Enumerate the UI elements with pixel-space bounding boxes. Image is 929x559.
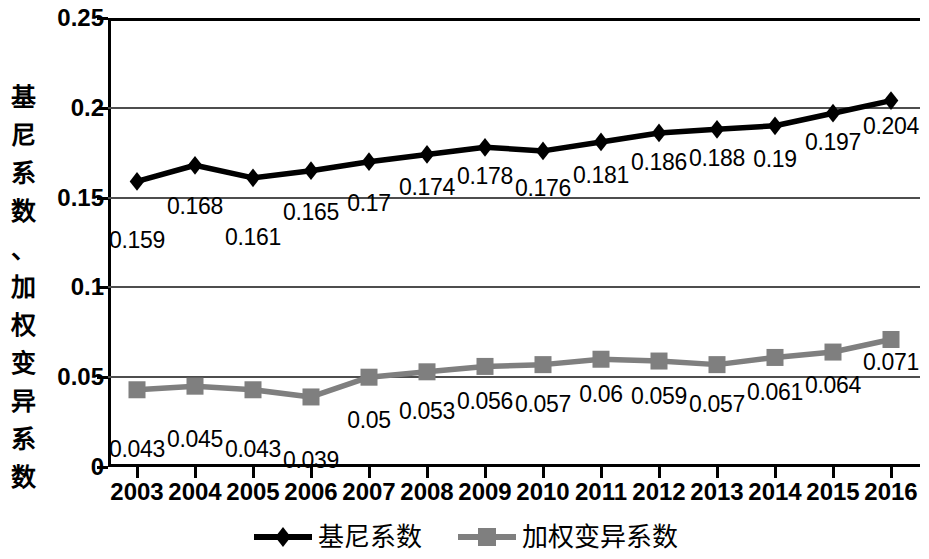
x-tickmark: [136, 467, 139, 478]
data-point-label: 0.178: [457, 163, 513, 190]
data-point-label: 0.061: [747, 379, 803, 406]
x-axis-tick-label: 2016: [864, 478, 917, 506]
data-point-marker: [420, 145, 435, 164]
x-axis-tick-label: 2004: [168, 478, 221, 506]
data-point-label: 0.204: [863, 113, 919, 140]
x-tickmark: [716, 467, 719, 478]
data-point-label: 0.059: [631, 383, 687, 410]
data-point-marker: [478, 138, 493, 157]
legend-diamond-icon: [252, 524, 314, 550]
data-point-label: 0.181: [573, 162, 629, 189]
x-axis-tick-label: 2003: [110, 478, 163, 506]
x-tickmark: [600, 467, 603, 478]
data-point-label: 0.053: [399, 398, 455, 425]
data-point-marker: [594, 133, 609, 152]
x-axis-tick-label: 2010: [516, 478, 569, 506]
x-axis-tick-label: 2013: [690, 478, 743, 506]
legend-label: 基尼系数: [318, 524, 422, 550]
data-point-label: 0.071: [863, 349, 919, 376]
x-tickmark: [890, 467, 893, 478]
gini-coefficient-line-chart: 基 尼 系 数 、 加 权 变 异 系 数 00.050.10.150.20.2…: [0, 0, 929, 559]
data-point-label: 0.159: [109, 227, 165, 254]
data-point-label: 0.168: [167, 193, 223, 220]
legend-item-2[interactable]: 加权变异系数: [456, 524, 678, 550]
data-point-marker: [768, 116, 783, 135]
x-tickmark: [368, 467, 371, 478]
x-tickmark: [252, 467, 255, 478]
data-point-label: 0.056: [457, 388, 513, 415]
data-point-label: 0.045: [167, 426, 223, 453]
data-point-label: 0.188: [689, 145, 745, 172]
data-point-marker: [884, 91, 899, 110]
x-tickmark: [542, 467, 545, 478]
y-tickmark: [97, 286, 108, 289]
legend-item-1[interactable]: 基尼系数: [252, 524, 422, 550]
y-axis-tick-label: 0.15: [34, 184, 104, 212]
data-point-marker: [246, 168, 261, 187]
x-axis-tick-label: 2006: [284, 478, 337, 506]
data-point-label: 0.06: [579, 381, 623, 408]
data-point-marker: [652, 124, 667, 143]
y-axis-tick-label: 0.05: [34, 363, 104, 391]
data-point-marker: [303, 388, 320, 405]
data-point-marker: [361, 369, 378, 386]
data-point-label: 0.039: [283, 447, 339, 474]
data-point-marker: [767, 349, 784, 366]
y-tickmark: [97, 197, 108, 200]
data-point-label: 0.161: [225, 224, 281, 251]
x-axis-tick-label: 2011: [575, 478, 627, 506]
x-tickmark: [426, 467, 429, 478]
x-axis-tick-label: 2015: [806, 478, 859, 506]
chart-legend: 基尼系数加权变异系数: [0, 524, 929, 550]
data-point-marker: [362, 152, 377, 171]
data-point-marker: [130, 172, 145, 191]
data-point-marker: [187, 378, 204, 395]
data-point-marker: [825, 344, 842, 361]
x-axis-tick-label: 2007: [342, 478, 395, 506]
data-point-label: 0.186: [631, 149, 687, 176]
data-point-label: 0.197: [805, 129, 861, 156]
data-point-marker: [536, 142, 551, 161]
data-point-marker: [304, 161, 319, 180]
data-point-marker: [709, 356, 726, 373]
x-tickmark: [484, 467, 487, 478]
data-point-label: 0.043: [109, 436, 165, 463]
x-axis-tick-label: 2014: [748, 478, 801, 506]
y-axis-tick-label: 0.2: [34, 94, 104, 122]
data-point-marker: [883, 331, 900, 348]
data-point-marker: [535, 356, 552, 373]
data-point-marker: [651, 353, 668, 370]
y-axis-tick-label: 0.25: [34, 4, 104, 32]
y-tickmark: [97, 17, 108, 20]
data-point-label: 0.057: [689, 391, 745, 418]
data-point-marker: [593, 351, 610, 368]
data-point-label: 0.165: [283, 199, 339, 226]
data-point-label: 0.176: [515, 175, 571, 202]
data-point-marker: [477, 358, 494, 375]
x-axis-tick-label: 2012: [632, 478, 685, 506]
x-axis-tick-label: 2009: [458, 478, 511, 506]
data-point-label: 0.17: [347, 190, 391, 217]
y-axis-tick-labels: 00.050.10.150.20.25: [34, 0, 104, 559]
data-point-label: 0.064: [805, 372, 861, 399]
y-tickmark: [97, 107, 108, 110]
x-tickmark: [194, 467, 197, 478]
data-point-label: 0.19: [753, 146, 797, 173]
x-tickmark: [774, 467, 777, 478]
y-axis-tick-label: 0: [34, 453, 104, 481]
data-point-label: 0.174: [399, 174, 455, 201]
data-point-marker: [826, 104, 841, 123]
data-point-marker: [129, 381, 146, 398]
y-tickmark: [97, 376, 108, 379]
x-tickmark: [658, 467, 661, 478]
x-tickmark: [832, 467, 835, 478]
data-point-label: 0.057: [515, 391, 571, 418]
data-point-marker: [188, 156, 203, 175]
legend-square-icon: [456, 524, 518, 550]
data-point-label: 0.05: [347, 407, 391, 434]
data-point-label: 0.043: [225, 436, 281, 463]
x-axis-tick-label: 2008: [400, 478, 453, 506]
legend-label: 加权变异系数: [522, 524, 678, 550]
y-axis-tick-label: 0.1: [34, 273, 104, 301]
data-point-marker: [419, 363, 436, 380]
